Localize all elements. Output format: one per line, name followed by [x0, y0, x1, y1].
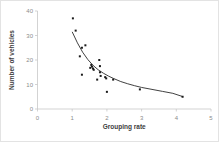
x-tick-label: 1 [71, 115, 75, 121]
axis-lines [35, 11, 211, 112]
data-point [81, 74, 83, 76]
data-point [93, 69, 95, 71]
data-point [79, 55, 81, 57]
data-point [106, 91, 108, 93]
data-point [99, 65, 101, 67]
x-tick-label: 0 [36, 115, 40, 121]
data-point [99, 71, 101, 73]
data-point [72, 17, 74, 19]
y-axis-title: Number of vehicles [8, 30, 15, 90]
trend-curve [72, 32, 183, 97]
data-points [72, 17, 184, 97]
y-tick-label: 30 [26, 33, 33, 39]
x-tick-label: 2 [105, 115, 109, 121]
data-point [100, 75, 102, 77]
x-tick-label: 3 [140, 115, 144, 121]
data-point [84, 44, 86, 46]
data-point [81, 47, 83, 49]
scatter-plot: 010203040 012345 Number of vehicles Grou… [1, 1, 219, 142]
x-tick-label: 4 [175, 115, 179, 121]
x-axis-title: Grouping rate [103, 123, 146, 131]
data-point [89, 67, 91, 69]
trend-line-path [72, 32, 183, 97]
y-tick-label: 40 [26, 8, 33, 14]
chart-figure: 010203040 012345 Number of vehicles Grou… [0, 0, 219, 142]
data-point [105, 77, 107, 79]
data-point [91, 66, 93, 68]
x-axis-tick-labels: 012345 [36, 115, 214, 121]
data-point [139, 88, 141, 90]
data-point [75, 30, 77, 32]
data-point [90, 64, 92, 66]
y-tick-label: 20 [26, 57, 33, 63]
data-point [98, 59, 100, 61]
y-axis-tick-labels: 010203040 [26, 8, 33, 112]
data-point [96, 79, 98, 81]
data-point [112, 79, 114, 81]
y-tick-label: 10 [26, 82, 33, 88]
x-tick-label: 5 [209, 115, 213, 121]
y-tick-label: 0 [30, 106, 34, 112]
data-point [182, 96, 184, 98]
